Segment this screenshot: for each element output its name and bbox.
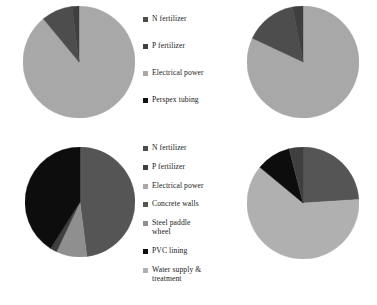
pie-chart-top-left <box>23 6 135 118</box>
square-swatch <box>143 184 148 189</box>
legend-item[interactable]: N fertilizer <box>143 143 235 152</box>
legend-bottom: N fertilizerP fertilizerElectrical power… <box>143 143 235 293</box>
legend-item[interactable]: Concrete walls <box>143 199 235 208</box>
legend-item-label: Electrical power <box>152 181 204 190</box>
pie-panel-top-left <box>23 6 135 118</box>
legend-item-label: Water supply & treatment <box>152 265 201 283</box>
pie-chart-bottom-right <box>247 147 359 259</box>
legend-top: N fertilizerP fertilizerElectrical power… <box>143 14 235 122</box>
square-swatch <box>143 146 148 151</box>
legend-item-label: P fertilizer <box>152 41 185 50</box>
square-swatch <box>143 165 148 170</box>
square-swatch <box>143 44 148 49</box>
legend-item[interactable]: P fertilizer <box>143 41 235 68</box>
pie-chart-top-right <box>247 6 359 118</box>
square-swatch <box>143 17 148 22</box>
legend-item[interactable]: N fertilizer <box>143 14 235 41</box>
legend-item[interactable]: Steel paddle wheel <box>143 218 235 236</box>
square-swatch <box>143 221 148 226</box>
legend-item-label: Concrete walls <box>152 199 199 208</box>
pie-panel-top-right <box>247 6 359 118</box>
legend-item[interactable]: Electrical power <box>143 68 235 95</box>
legend-item-label: P fertilizer <box>152 162 185 171</box>
square-swatch <box>143 98 148 103</box>
legend-item-label: N fertilizer <box>152 143 187 152</box>
legend-item[interactable]: Perspex tubing <box>143 95 235 122</box>
pie-chart-figure: N fertilizerP fertilizerElectrical power… <box>0 0 377 305</box>
square-swatch <box>143 71 148 76</box>
pie-panel-bottom-right <box>247 147 359 259</box>
pie-panel-bottom-left <box>25 147 135 257</box>
legend-item-label: PVC lining <box>152 246 187 255</box>
pie-chart-bottom-left <box>25 147 135 257</box>
legend-item[interactable]: PVC lining <box>143 246 235 255</box>
square-swatch <box>143 249 148 254</box>
legend-item[interactable]: P fertilizer <box>143 162 235 171</box>
pie-slice[interactable] <box>80 147 135 257</box>
square-swatch <box>143 268 148 273</box>
legend-item-label: Perspex tubing <box>152 95 199 104</box>
square-swatch <box>143 202 148 207</box>
legend-item-label: N fertilizer <box>152 14 187 23</box>
legend-item-label: Electrical power <box>152 68 204 77</box>
pie-slice[interactable] <box>303 147 359 203</box>
legend-item-label: Steel paddle wheel <box>152 218 191 236</box>
legend-item[interactable]: Water supply & treatment <box>143 265 235 283</box>
legend-item[interactable]: Electrical power <box>143 181 235 190</box>
